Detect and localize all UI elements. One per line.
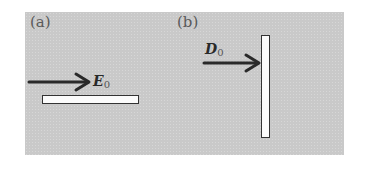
arrows-layer xyxy=(0,0,366,170)
arrow-e0-icon xyxy=(29,74,89,90)
arrow-d0-icon xyxy=(204,55,259,71)
